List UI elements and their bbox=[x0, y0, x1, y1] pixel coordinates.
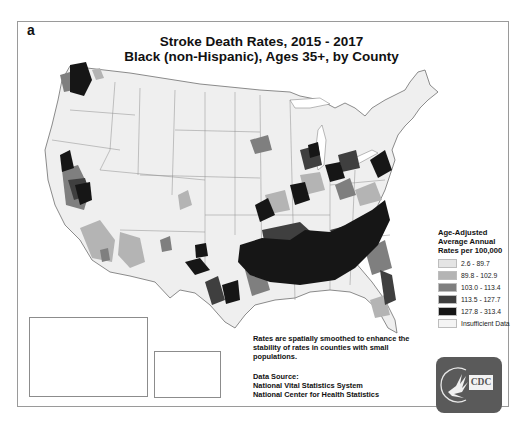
legend-label: 89.8 - 102.9 bbox=[461, 272, 497, 279]
legend-item: 113.5 - 127.7 bbox=[438, 293, 510, 305]
legend-label: 127.8 - 313.4 bbox=[461, 308, 501, 315]
data-source: Data Source: National Vital Statistics S… bbox=[253, 372, 423, 399]
legend-swatch bbox=[438, 259, 457, 268]
data-source-line1: National Vital Statistics System bbox=[253, 381, 423, 390]
smoothing-note: Rates are spatially smoothed to enhance … bbox=[253, 334, 413, 361]
legend-title-1: Age-Adjusted bbox=[438, 228, 510, 237]
legend-swatch bbox=[438, 307, 457, 316]
legend-swatch bbox=[438, 271, 457, 280]
legend-label: 113.5 - 127.7 bbox=[461, 296, 501, 303]
legend-item: 2.6 - 89.7 bbox=[438, 257, 510, 269]
legend-item: Insufficient Data bbox=[438, 317, 510, 329]
legend-item: 127.8 - 313.4 bbox=[438, 305, 510, 317]
alaska-inset bbox=[29, 317, 148, 397]
data-source-line2: National Center for Health Statistics bbox=[253, 390, 423, 399]
legend-title-2: Average Annual bbox=[438, 237, 510, 246]
legend-item: 103.0 - 113.4 bbox=[438, 281, 510, 293]
cdc-wordmark: CDC bbox=[469, 375, 493, 390]
legend-swatch bbox=[438, 295, 457, 304]
legend: Age-Adjusted Average Annual Rates per 10… bbox=[438, 228, 510, 329]
legend-swatch bbox=[438, 283, 457, 292]
legend-label: 103.0 - 113.4 bbox=[461, 284, 501, 291]
legend-swatch bbox=[438, 319, 457, 328]
legend-item: 89.8 - 102.9 bbox=[438, 269, 510, 281]
hawaii-inset bbox=[154, 351, 221, 398]
legend-label: Insufficient Data bbox=[461, 320, 510, 327]
legend-title-3: Rates per 100,000 bbox=[438, 246, 510, 255]
data-source-heading: Data Source: bbox=[253, 372, 423, 381]
cdc-logo: CDC bbox=[436, 357, 502, 413]
legend-label: 2.6 - 89.7 bbox=[461, 260, 490, 267]
